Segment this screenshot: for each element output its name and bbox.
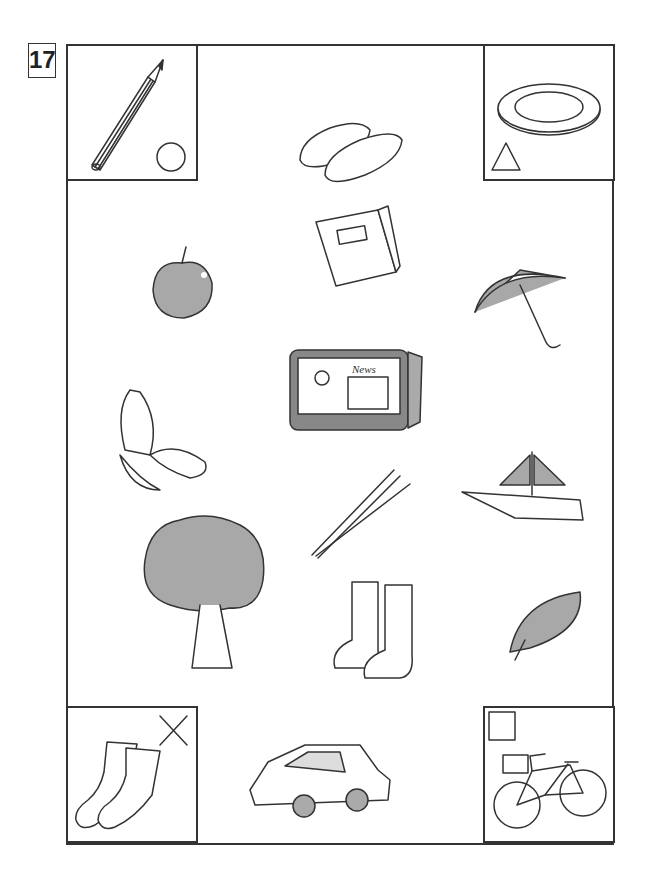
television-icon [290,350,422,430]
car-icon [250,745,390,817]
pencil-icon [92,60,163,170]
boots-icon [334,582,412,678]
square-mark-icon [489,712,515,740]
apple-icon [153,247,212,318]
leaf-icon [510,592,580,660]
tree-icon [144,516,263,668]
bicycle-icon [494,754,606,828]
umbrella-icon [475,270,565,348]
butterfly-icon [120,390,206,490]
plate-icon [498,84,600,135]
svg-text:News: News [351,363,376,375]
sailboat-icon [462,452,583,520]
illustrations: News [0,0,648,891]
circle-mark-icon [157,143,185,171]
chopsticks-icon [312,470,410,558]
book-icon [316,206,400,286]
socks-icon [76,742,160,828]
slippers-icon [300,123,402,181]
cross-mark-icon [160,716,187,745]
triangle-mark-icon [492,143,520,170]
